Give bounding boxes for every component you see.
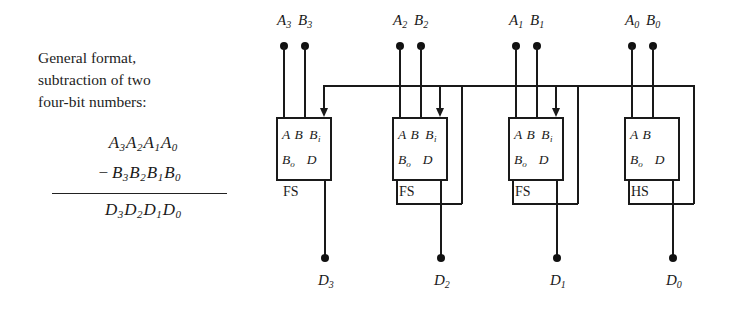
output-label-d1: D1 (550, 272, 566, 290)
input-label-a2: A2 (393, 12, 407, 30)
output-terminal-d0 (669, 254, 677, 262)
output-terminal-d1 (553, 254, 561, 262)
wire-d0-out (672, 181, 674, 258)
block-hs-0-bottom-ports: BoD (626, 152, 678, 169)
wire-b0-to-block (652, 46, 654, 118)
input-label-b3: B3 (298, 12, 312, 30)
input-label-b2: B2 (414, 12, 428, 30)
borrow-wire-2-across (396, 203, 462, 205)
block-fs-2-bottom-ports: BoD (394, 152, 446, 169)
block-fs-2-top-ports: A B Bi (394, 127, 446, 144)
block-fs-3: A B Bi BoD (276, 117, 332, 181)
input-label-b1: B1 (530, 12, 544, 30)
borrow-wire-2-down (396, 181, 398, 205)
block-fs-2: A B Bi BoD (392, 117, 448, 181)
block-fs-3-top-ports: A B Bi (278, 127, 330, 144)
block-label-hs-0: HS (631, 184, 649, 200)
block-label-fs-1: FS (515, 184, 531, 200)
borrow-wire-1-up (577, 85, 579, 204)
wire-a1-to-block (515, 46, 517, 118)
borrow-wire-2-up (461, 85, 463, 204)
wire-a3-to-block (283, 46, 285, 118)
block-fs-1-top-ports: A B Bi (510, 127, 562, 144)
block-hs-0: A B BoD (624, 117, 680, 181)
borrow-wire-1-across (512, 203, 578, 205)
block-hs-0-top-ports: A B (626, 127, 678, 143)
block-fs-1-bottom-ports: BoD (510, 152, 562, 169)
block-label-fs-3: FS (283, 184, 299, 200)
wire-b3-to-block (304, 46, 306, 118)
input-label-b0: B0 (646, 12, 660, 30)
wire-a0-to-block (631, 46, 633, 118)
figure-canvas: General format, subtraction of two four-… (0, 0, 731, 314)
subtractor-circuit: A3 B3 A B Bi BoD FS D3 A2 B2 A B Bi B (0, 0, 731, 314)
wire-d1-out (556, 181, 558, 258)
input-label-a1: A1 (509, 12, 523, 30)
input-label-a3: A3 (277, 12, 291, 30)
wire-d3-out (324, 181, 326, 258)
wire-b1-to-block (536, 46, 538, 118)
borrow-wire-0-across (628, 203, 694, 205)
block-fs-1: A B Bi BoD (508, 117, 564, 181)
borrow-wire-0-to-fs1 (555, 85, 695, 87)
borrow-wire-0-drop (555, 85, 557, 110)
output-label-d0: D0 (666, 272, 682, 290)
borrow-wire-0-up (693, 85, 695, 204)
output-terminal-d3 (321, 254, 329, 262)
input-label-a0: A0 (625, 12, 639, 30)
borrow-wire-1-drop (439, 85, 441, 110)
wire-d2-out (440, 181, 442, 258)
output-label-d3: D3 (318, 272, 334, 290)
borrow-wire-2-drop (323, 85, 325, 110)
wire-b2-to-block (420, 46, 422, 118)
borrow-wire-1-down (512, 181, 514, 205)
block-fs-3-bottom-ports: BoD (278, 152, 330, 169)
borrow-wire-0-down (628, 181, 630, 205)
output-label-d2: D2 (434, 272, 450, 290)
block-label-fs-2: FS (399, 184, 415, 200)
output-terminal-d2 (437, 254, 445, 262)
wire-a2-to-block (399, 46, 401, 118)
